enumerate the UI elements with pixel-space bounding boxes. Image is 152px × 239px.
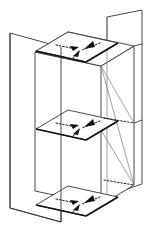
isometric-diagram-canvas (0, 0, 152, 239)
figure-root: Stacked parallelogram planes with conver… (0, 0, 152, 239)
